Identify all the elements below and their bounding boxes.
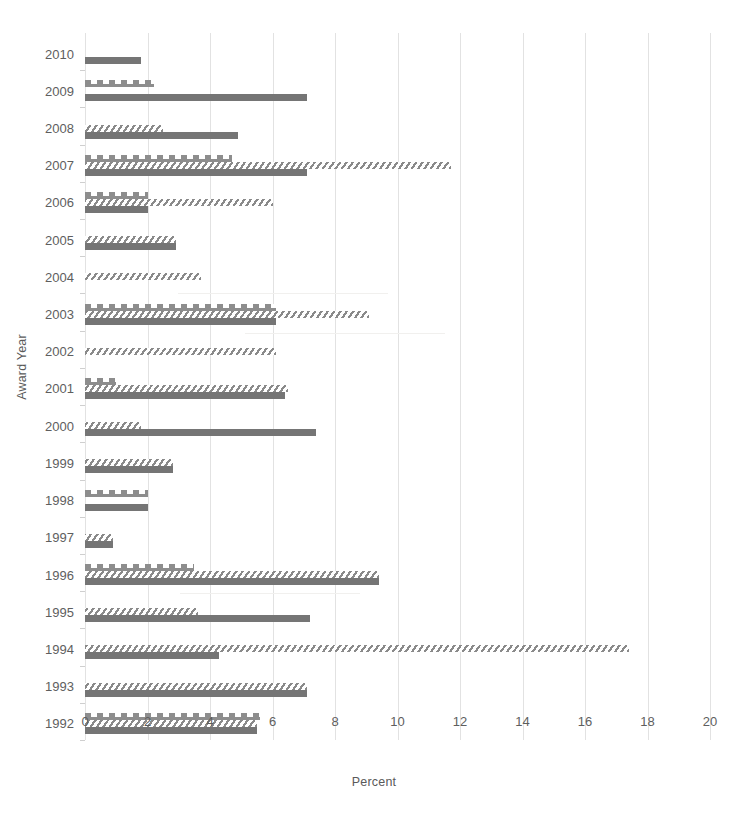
bar-series-1-dotted-1996 [85, 564, 194, 571]
chart-category-row: 2001 [85, 368, 710, 405]
chart-category-row: 1998 [85, 480, 710, 517]
chart-category-row: 1993 [85, 666, 710, 703]
bar-series-3-solid-2007 [85, 169, 307, 176]
y-tick-label: 1997 [45, 531, 74, 544]
bar-series-2-hatched-1993 [85, 683, 307, 690]
bar-series-3-solid-2008 [85, 132, 238, 139]
bar-series-2-hatched-2000 [85, 422, 141, 429]
y-axis-title: Award Year [15, 297, 29, 437]
bar-series-2-hatched-2004 [85, 273, 201, 280]
bar-series-3-solid-2005 [85, 243, 176, 250]
bar-series-1-dotted-1992 [85, 713, 260, 720]
x-gridline [710, 33, 711, 740]
y-tick-label: 1995 [45, 606, 74, 619]
bar-series-2-hatched-1997 [85, 534, 113, 541]
y-tick-label: 2008 [45, 122, 74, 135]
x-tick-label: 8 [331, 714, 338, 729]
bar-series-3-solid-2001 [85, 392, 285, 399]
chart-category-row: 2010 [85, 33, 710, 70]
x-tick-label: 0 [81, 714, 88, 729]
bar-series-3-solid-1995 [85, 615, 310, 622]
chart-category-row: 2004 [85, 256, 710, 293]
bar-series-2-hatched-2008 [85, 125, 163, 132]
chart-category-row: 2008 [85, 107, 710, 144]
y-tick-label: 2003 [45, 308, 74, 321]
bar-series-3-solid-1992 [85, 727, 257, 734]
bar-series-2-hatched-2007 [85, 162, 451, 169]
y-tick-label: 2006 [45, 196, 74, 209]
bar-series-3-solid-1993 [85, 690, 307, 697]
bar-series-1-dotted-1998 [85, 490, 148, 497]
x-tick-label: 16 [578, 714, 592, 729]
bar-series-3-solid-2000 [85, 429, 316, 436]
y-tick-label: 1998 [45, 494, 74, 507]
x-tick-label: 14 [515, 714, 529, 729]
chart-category-row: 2005 [85, 219, 710, 256]
y-tick-label: 2004 [45, 271, 74, 284]
bar-series-3-solid-2006 [85, 206, 148, 213]
chart-category-row: 2006 [85, 182, 710, 219]
chart-category-row: 2002 [85, 331, 710, 368]
y-tick-label: 2009 [45, 85, 74, 98]
x-tick-label: 10 [390, 714, 404, 729]
bar-series-2-hatched-1996 [85, 571, 379, 578]
x-tick-label: 12 [453, 714, 467, 729]
bar-series-2-hatched-2005 [85, 236, 176, 243]
y-tick-label: 2010 [45, 48, 74, 61]
plot-area: 2010200920082007200620052004200320022001… [85, 33, 710, 740]
bar-series-2-hatched-2001 [85, 385, 288, 392]
bar-series-3-solid-1998 [85, 504, 148, 511]
chart-category-row: 1999 [85, 442, 710, 479]
bar-series-1-dotted-2009 [85, 80, 154, 87]
x-tick-label: 6 [269, 714, 276, 729]
x-tick-label: 18 [640, 714, 654, 729]
y-tick-label: 1992 [45, 717, 74, 730]
bar-series-3-solid-1996 [85, 578, 379, 585]
x-tick-label: 20 [703, 714, 717, 729]
bar-series-2-hatched-2002 [85, 348, 276, 355]
bar-series-3-solid-2009 [85, 94, 307, 101]
y-tick-label: 2007 [45, 159, 74, 172]
bar-series-1-dotted-2001 [85, 378, 116, 385]
bar-series-2-hatched-1992 [85, 720, 257, 727]
y-tick-label: 1993 [45, 680, 74, 693]
bar-series-2-hatched-2003 [85, 311, 369, 318]
bar-series-2-hatched-1999 [85, 459, 173, 466]
bar-series-1-dotted-2007 [85, 155, 232, 162]
bar-series-1-dotted-2003 [85, 304, 276, 311]
y-tick-label: 2000 [45, 420, 74, 433]
bar-chart: Award Year 20102009200820072006200520042… [0, 0, 748, 817]
y-tick-label: 1999 [45, 457, 74, 470]
y-tick-label: 2001 [45, 382, 74, 395]
bar-series-3-solid-1999 [85, 466, 173, 473]
y-axis-tick [80, 740, 85, 741]
y-tick-label: 2005 [45, 234, 74, 247]
bar-series-3-solid-2010 [85, 57, 141, 64]
bar-series-2-hatched-1995 [85, 608, 198, 615]
bar-series-1-dotted-2006 [85, 192, 148, 199]
y-tick-label: 1996 [45, 569, 74, 582]
y-tick-label: 2002 [45, 345, 74, 358]
x-tick-label: 4 [206, 714, 213, 729]
chart-category-row: 1995 [85, 591, 710, 628]
bar-series-3-solid-2003 [85, 318, 276, 325]
y-tick-label: 1994 [45, 643, 74, 656]
bar-series-3-solid-1994 [85, 652, 219, 659]
chart-category-row: 2009 [85, 70, 710, 107]
chart-category-row: 2003 [85, 293, 710, 330]
chart-category-row: 1997 [85, 517, 710, 554]
chart-category-row: 1994 [85, 628, 710, 665]
x-axis-title: Percent [0, 775, 748, 789]
x-tick-label: 2 [144, 714, 151, 729]
chart-category-row: 2007 [85, 145, 710, 182]
bar-series-2-hatched-2006 [85, 199, 273, 206]
bar-series-2-hatched-1994 [85, 645, 629, 652]
bar-series-3-solid-1997 [85, 541, 113, 548]
chart-category-row: 2000 [85, 405, 710, 442]
chart-category-row: 1996 [85, 554, 710, 591]
